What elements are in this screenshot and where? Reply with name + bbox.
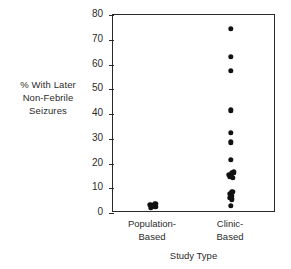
y-tick-label: 80 (81, 9, 103, 19)
x-category-1-line-2: Based (175, 231, 285, 244)
scatter-plot-figure: % With Later Non-Febrile Seizures 010203… (0, 0, 291, 269)
y-tick-mark (109, 213, 114, 214)
y-tick-mark (109, 40, 114, 41)
y-tick-mark (109, 89, 114, 90)
data-point (228, 140, 233, 145)
y-tick-label: 60 (81, 59, 103, 69)
y-tick-label: 30 (81, 133, 103, 143)
data-point (228, 130, 233, 135)
x-category-1-line-1: Clinic- (175, 218, 285, 231)
x-axis-title: Study Type (112, 250, 275, 261)
y-tick-label: 20 (81, 158, 103, 168)
y-tick-mark (109, 65, 114, 66)
y-tick-label: 40 (81, 108, 103, 118)
data-point (229, 197, 234, 202)
y-tick-mark (109, 139, 114, 140)
x-axis-category-clinic-based: Clinic- Based (175, 218, 285, 243)
y-tick-mark (109, 114, 114, 115)
data-point (228, 108, 233, 113)
y-tick-mark (109, 164, 114, 165)
plot-area (112, 14, 275, 212)
y-tick-label: 10 (81, 182, 103, 192)
y-tick-mark (109, 15, 114, 16)
data-point (230, 175, 235, 180)
data-point (228, 26, 233, 31)
data-point (228, 203, 233, 208)
y-tick-mark (109, 188, 114, 189)
y-tick-label: 0 (81, 207, 103, 217)
y-tick-label: 50 (81, 83, 103, 93)
y-tick-label: 70 (81, 34, 103, 44)
data-point (228, 68, 233, 73)
data-point (228, 157, 233, 162)
data-point (228, 54, 233, 59)
